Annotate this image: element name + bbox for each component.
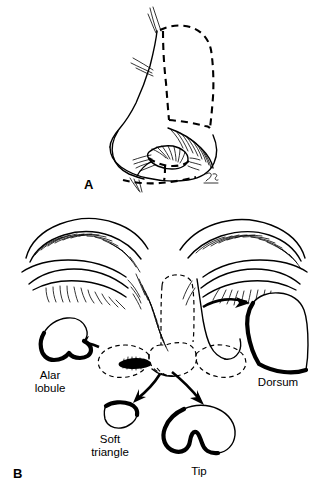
frontal-right-alar-subunit-dashed	[196, 345, 246, 378]
alar-lobule-label-line1: Alar	[40, 369, 61, 381]
nose-left-sidewall-hatching	[136, 274, 168, 351]
nasal-subunits-illustration: A	[0, 0, 327, 493]
left-eye	[22, 260, 141, 309]
panel-a-tip-and-ala-contour	[110, 135, 217, 181]
panel-a-dorsal-profile	[110, 31, 157, 147]
soft-triangle-label-line1: Soft	[100, 433, 121, 445]
panel-a-columella-hairlines	[130, 178, 142, 192]
dorsum-template: Dorsum	[247, 293, 308, 388]
alar-lobule-label-line2: lobule	[35, 382, 66, 394]
panel-b-group: Alar lobule Soft triangle Tip Dorsum B	[13, 219, 308, 481]
left-eyebrow	[26, 219, 148, 272]
figure-canvas: A	[0, 0, 327, 493]
panel-a-label: A	[84, 177, 94, 192]
panel-a-dorsum-medial-dashed	[163, 31, 169, 120]
arrow-to-soft-triangle	[133, 374, 160, 403]
artist-signature	[204, 173, 218, 183]
soft-triangle-template: Soft triangle	[91, 402, 137, 458]
panel-a-facet-line	[137, 161, 152, 176]
arrow-to-tip	[172, 372, 204, 405]
panel-a-group: A	[84, 7, 218, 192]
nose-right-ala-contour	[225, 339, 241, 359]
panel-b-label: B	[13, 466, 22, 481]
panel-a-dorsum-lower-dashed	[169, 120, 210, 128]
panel-a-columella-dashed	[164, 166, 165, 181]
panel-a-dorsum-subunit-dashed	[160, 26, 213, 128]
alar-lobule-template: Alar lobule	[35, 318, 91, 394]
nose-right-sidewall	[197, 279, 225, 359]
arrow-to-dorsum	[203, 297, 250, 308]
tip-template: Tip	[162, 405, 235, 477]
panel-a-glabella-hairlines	[131, 7, 161, 76]
dorsum-label: Dorsum	[258, 376, 298, 388]
frontal-tip-subunit-dashed	[149, 343, 197, 376]
tip-label: Tip	[191, 465, 207, 477]
soft-triangle-label-line2: triangle	[91, 446, 129, 458]
